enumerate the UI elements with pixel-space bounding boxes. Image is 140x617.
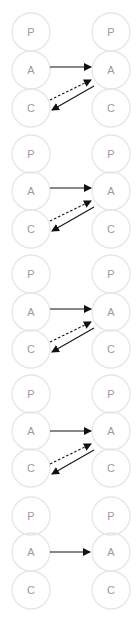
- group-3: PACPAC: [12, 255, 130, 368]
- node-label: P: [27, 26, 34, 38]
- node-label: P: [27, 148, 34, 160]
- node-label: C: [27, 223, 35, 235]
- right-node-c: C: [92, 210, 130, 248]
- solid-arrow-right-A-to-left-C: [52, 207, 94, 231]
- node-label: A: [27, 425, 35, 437]
- node-label: A: [107, 546, 115, 558]
- left-node-c: C: [12, 210, 50, 248]
- node-label: P: [107, 388, 114, 400]
- node-label: C: [107, 102, 115, 114]
- left-node-p: P: [12, 13, 50, 51]
- node-label: C: [107, 343, 115, 355]
- node-label: P: [27, 510, 34, 522]
- right-node-p: P: [92, 135, 130, 173]
- left-node-a: A: [12, 293, 50, 331]
- right-node-c: C: [92, 330, 130, 368]
- node-label: P: [27, 268, 34, 280]
- left-node-a: A: [12, 412, 50, 450]
- right-node-c: C: [92, 449, 130, 487]
- node-label: A: [107, 425, 115, 437]
- node-label: A: [107, 185, 115, 197]
- node-label: P: [107, 26, 114, 38]
- group-5: PACPAC: [12, 497, 130, 609]
- node-label: C: [27, 343, 35, 355]
- left-node-c: C: [12, 330, 50, 368]
- right-node-a: A: [92, 533, 130, 571]
- dashed-arrow-left-C-to-right-A: [50, 444, 91, 464]
- node-label: A: [27, 185, 35, 197]
- dashed-arrow-left-C-to-right-A: [50, 322, 91, 342]
- group-4: PACPAC: [12, 375, 130, 487]
- right-node-a: A: [92, 172, 130, 210]
- left-node-p: P: [12, 375, 50, 413]
- left-node-c: C: [12, 571, 50, 609]
- right-node-c: C: [92, 571, 130, 609]
- group-1: PACPAC: [12, 13, 130, 127]
- group-2: PACPAC: [12, 135, 130, 248]
- node-label: C: [107, 223, 115, 235]
- node-label: A: [27, 546, 35, 558]
- node-label: C: [27, 462, 35, 474]
- solid-arrow-right-A-to-left-C: [52, 328, 94, 352]
- left-node-c: C: [12, 449, 50, 487]
- left-node-a: A: [12, 51, 50, 89]
- right-node-a: A: [92, 293, 130, 331]
- right-node-p: P: [92, 255, 130, 293]
- left-node-p: P: [12, 255, 50, 293]
- right-node-a: A: [92, 51, 130, 89]
- right-node-c: C: [92, 89, 130, 127]
- right-node-a: A: [92, 412, 130, 450]
- left-node-p: P: [12, 497, 50, 535]
- node-label: C: [107, 584, 115, 596]
- solid-arrow-right-A-to-left-C: [52, 86, 94, 110]
- right-node-p: P: [92, 375, 130, 413]
- node-label: P: [107, 148, 114, 160]
- left-node-a: A: [12, 533, 50, 571]
- left-node-p: P: [12, 135, 50, 173]
- node-label: P: [107, 268, 114, 280]
- node-label: P: [27, 388, 34, 400]
- pac-diagram: PACPACPACPACPACPACPACPACPACPAC: [0, 0, 140, 617]
- node-label: A: [107, 306, 115, 318]
- node-label: A: [107, 64, 115, 76]
- left-node-c: C: [12, 89, 50, 127]
- node-label: C: [107, 462, 115, 474]
- node-label: C: [27, 584, 35, 596]
- solid-arrow-right-A-to-left-C: [52, 450, 94, 474]
- dashed-arrow-left-C-to-right-A: [50, 80, 91, 100]
- right-node-p: P: [92, 497, 130, 535]
- node-label: P: [107, 510, 114, 522]
- node-label: A: [27, 64, 35, 76]
- right-node-p: P: [92, 13, 130, 51]
- dashed-arrow-left-C-to-right-A: [50, 201, 91, 221]
- node-label: A: [27, 306, 35, 318]
- left-node-a: A: [12, 172, 50, 210]
- node-label: C: [27, 102, 35, 114]
